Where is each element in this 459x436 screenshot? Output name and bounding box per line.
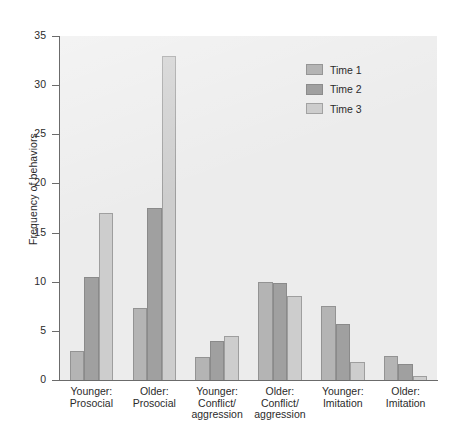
x-axis-category-label: Younger: Prosocial [55, 386, 127, 409]
y-tick-label: 30 [0, 78, 46, 90]
legend-swatch-icon [306, 103, 323, 114]
legend-label: Time 3 [330, 103, 362, 115]
legend-label: Time 1 [330, 64, 362, 76]
x-axis-category-label: Younger: Conflict/ aggression [181, 386, 253, 421]
y-tick-mark [52, 380, 60, 381]
bar [133, 308, 148, 380]
y-tick-label: 25 [0, 127, 46, 139]
y-tick-label: 15 [0, 226, 46, 238]
bar-chart: Frequency of behaviors 05101520253035 Yo… [0, 0, 459, 436]
legend-label: Time 2 [330, 83, 362, 95]
y-tick-label: 35 [0, 29, 46, 41]
bar [258, 282, 273, 380]
legend-item: Time 3 [306, 101, 396, 116]
x-axis-category-label: Older: Conflict/ aggression [244, 386, 316, 421]
y-tick-mark [52, 85, 60, 86]
x-axis-line [59, 380, 438, 381]
bar [398, 364, 413, 380]
x-axis-category-label: Older: Imitation [370, 386, 442, 409]
bar [162, 56, 177, 380]
y-tick-mark [52, 134, 60, 135]
bar [384, 356, 399, 380]
x-axis-category-label: Older: Prosocial [118, 386, 190, 409]
bar [224, 336, 239, 380]
bar [350, 362, 365, 380]
legend-swatch-icon [306, 84, 323, 95]
bar [287, 296, 302, 380]
bar [84, 277, 99, 380]
y-tick-mark [52, 331, 60, 332]
bar [336, 324, 351, 380]
y-tick-label: 5 [0, 324, 46, 336]
bar [273, 283, 288, 380]
legend: Time 1Time 2Time 3 [306, 62, 396, 121]
bar [195, 357, 210, 380]
legend-item: Time 1 [306, 62, 396, 77]
y-tick-mark [52, 233, 60, 234]
bar [70, 351, 85, 380]
legend-swatch-icon [306, 64, 323, 75]
legend-item: Time 2 [306, 82, 396, 97]
y-tick-mark [52, 282, 60, 283]
bar [210, 341, 225, 380]
y-axis-title: Frequency of behaviors [27, 94, 39, 284]
bar [321, 306, 336, 380]
y-tick-mark [52, 183, 60, 184]
bar [147, 208, 162, 380]
y-tick-label: 20 [0, 176, 46, 188]
y-axis-line [59, 36, 60, 381]
x-axis-category-label: Younger: Imitation [307, 386, 379, 409]
bar [99, 213, 114, 380]
y-tick-label: 10 [0, 275, 46, 287]
y-tick-mark [52, 36, 60, 37]
y-tick-label: 0 [0, 373, 46, 385]
